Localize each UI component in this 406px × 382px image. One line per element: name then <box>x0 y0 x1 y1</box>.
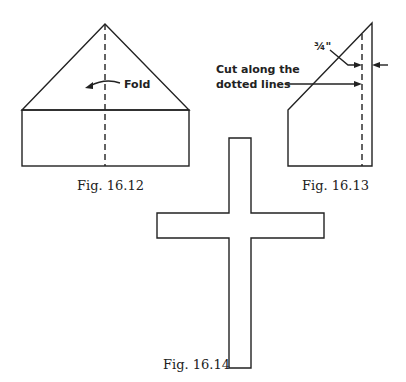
caption-fig-16-14: Fig. 16.14 <box>163 357 230 372</box>
measure-label: ¾" <box>314 40 331 53</box>
instruction-line-1: Cut along the <box>216 63 300 76</box>
caption-fig-16-12: Fig. 16.12 <box>77 178 144 193</box>
diagram-canvas: Fold Fig. 16.12 ¾" Cut along the dotted … <box>0 0 406 382</box>
fig-16-14 <box>157 138 324 368</box>
fold-arrowhead-icon <box>85 82 93 89</box>
instruction-arrowhead-icon <box>354 81 362 87</box>
cross-shape <box>157 138 324 368</box>
fig-16-12 <box>22 24 189 166</box>
measure-arrowhead-right-icon <box>372 62 380 68</box>
fig-16-13 <box>286 23 388 166</box>
caption-fig-16-13: Fig. 16.13 <box>302 178 369 193</box>
instruction-line-2: dotted lines <box>216 78 291 91</box>
fold-label: Fold <box>124 78 150 91</box>
measure-arrowhead-left-icon <box>354 62 362 68</box>
